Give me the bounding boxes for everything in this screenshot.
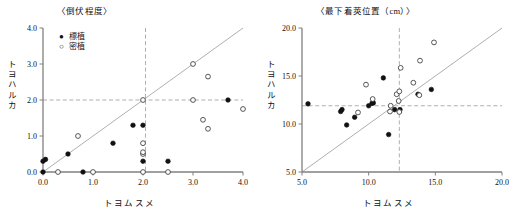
data-point-open	[364, 82, 369, 87]
data-point-open	[432, 40, 437, 45]
data-point-open	[91, 170, 96, 175]
data-point-open	[201, 117, 206, 122]
data-point-filled	[344, 123, 349, 128]
legend-item: ●標植	[57, 32, 85, 42]
data-point-open	[411, 80, 416, 85]
y-tick-label: 15.0	[282, 72, 296, 81]
data-point-open	[370, 97, 375, 102]
plot-area-right	[259, 0, 518, 220]
data-point-open	[191, 62, 196, 67]
chart-panel-lodging-degree: 〈倒伏程度〉 トヨムスメ トヨハルカ ●標植○密植 0.01.02.03.04.…	[0, 0, 259, 220]
legend-item-label: 密植	[69, 42, 85, 52]
x-tick-label: 15.0	[428, 178, 442, 187]
y-tick-label: 20.0	[282, 24, 296, 33]
filled-circle-icon: ●	[57, 32, 66, 42]
data-point-open	[206, 74, 211, 79]
data-point-filled	[226, 98, 231, 103]
data-point-filled	[429, 87, 434, 92]
x-tick-label: 3.0	[188, 178, 198, 187]
data-point-open	[417, 93, 422, 98]
x-tick-label: 10.0	[362, 178, 376, 187]
y-tick-label: 4.0	[27, 24, 37, 33]
data-point-filled	[306, 102, 311, 107]
data-point-open	[76, 134, 81, 139]
data-point-filled	[352, 115, 357, 120]
identity-reference-line	[302, 28, 502, 172]
data-point-filled	[41, 170, 46, 175]
data-point-filled	[340, 107, 345, 112]
chart-legend: ●標植○密植	[57, 32, 85, 52]
y-tick-label: 3.0	[27, 60, 37, 69]
open-circle-icon: ○	[57, 42, 66, 52]
legend-item: ○密植	[57, 42, 85, 52]
x-tick-label: 1.0	[88, 178, 98, 187]
figure-scatter-plot-pair: 〈倒伏程度〉 トヨムスメ トヨハルカ ●標植○密植 0.01.02.03.04.…	[0, 0, 518, 220]
data-point-open	[206, 126, 211, 131]
data-point-filled	[66, 152, 71, 157]
data-point-open	[56, 170, 61, 175]
data-point-open	[141, 98, 146, 103]
data-point-filled	[43, 157, 48, 162]
data-point-open	[141, 150, 146, 155]
y-tick-label: 10.0	[282, 120, 296, 129]
data-point-open	[141, 141, 146, 146]
data-point-filled	[381, 76, 386, 81]
data-point-open	[356, 110, 361, 115]
data-point-open	[191, 98, 196, 103]
data-point-open	[166, 170, 171, 175]
data-point-open	[396, 99, 401, 104]
y-axis-label-right: トヨハルカ	[265, 60, 274, 111]
data-point-open	[398, 65, 403, 70]
data-point-open	[388, 103, 393, 108]
y-tick-label: 1.0	[27, 132, 37, 141]
data-point-filled	[111, 141, 116, 146]
x-tick-label: 0.0	[38, 178, 48, 187]
chart-panel-lowest-pod-height: 〈最下着莢位置（cm）〉 トヨムスメ トヨハルカ 5.010.015.020.0…	[259, 0, 518, 220]
data-point-filled	[141, 123, 146, 128]
data-point-filled	[131, 123, 136, 128]
data-point-open	[418, 58, 423, 63]
data-point-filled	[166, 159, 171, 164]
x-tick-label: 5.0	[297, 178, 307, 187]
plot-area-left	[0, 0, 259, 220]
data-point-open	[141, 170, 146, 175]
data-point-filled	[386, 132, 391, 137]
data-point-filled	[141, 159, 146, 164]
data-point-filled	[81, 170, 86, 175]
x-tick-label: 4.0	[238, 178, 248, 187]
x-tick-label: 2.0	[138, 178, 148, 187]
y-axis-label-left: トヨハルカ	[6, 60, 15, 111]
data-point-open	[388, 109, 393, 114]
data-point-open	[397, 110, 402, 115]
y-tick-label: 0.0	[27, 168, 37, 177]
x-tick-label: 20.0	[495, 178, 509, 187]
data-point-open	[397, 89, 402, 94]
y-tick-label: 5.0	[286, 168, 296, 177]
legend-item-label: 標植	[69, 32, 85, 42]
x-axis-label-left: トヨムスメ	[0, 196, 259, 208]
data-point-filled	[392, 107, 397, 112]
y-tick-label: 2.0	[27, 96, 37, 105]
x-axis-label-right: トヨムスメ	[259, 196, 518, 208]
data-point-open	[241, 107, 246, 112]
